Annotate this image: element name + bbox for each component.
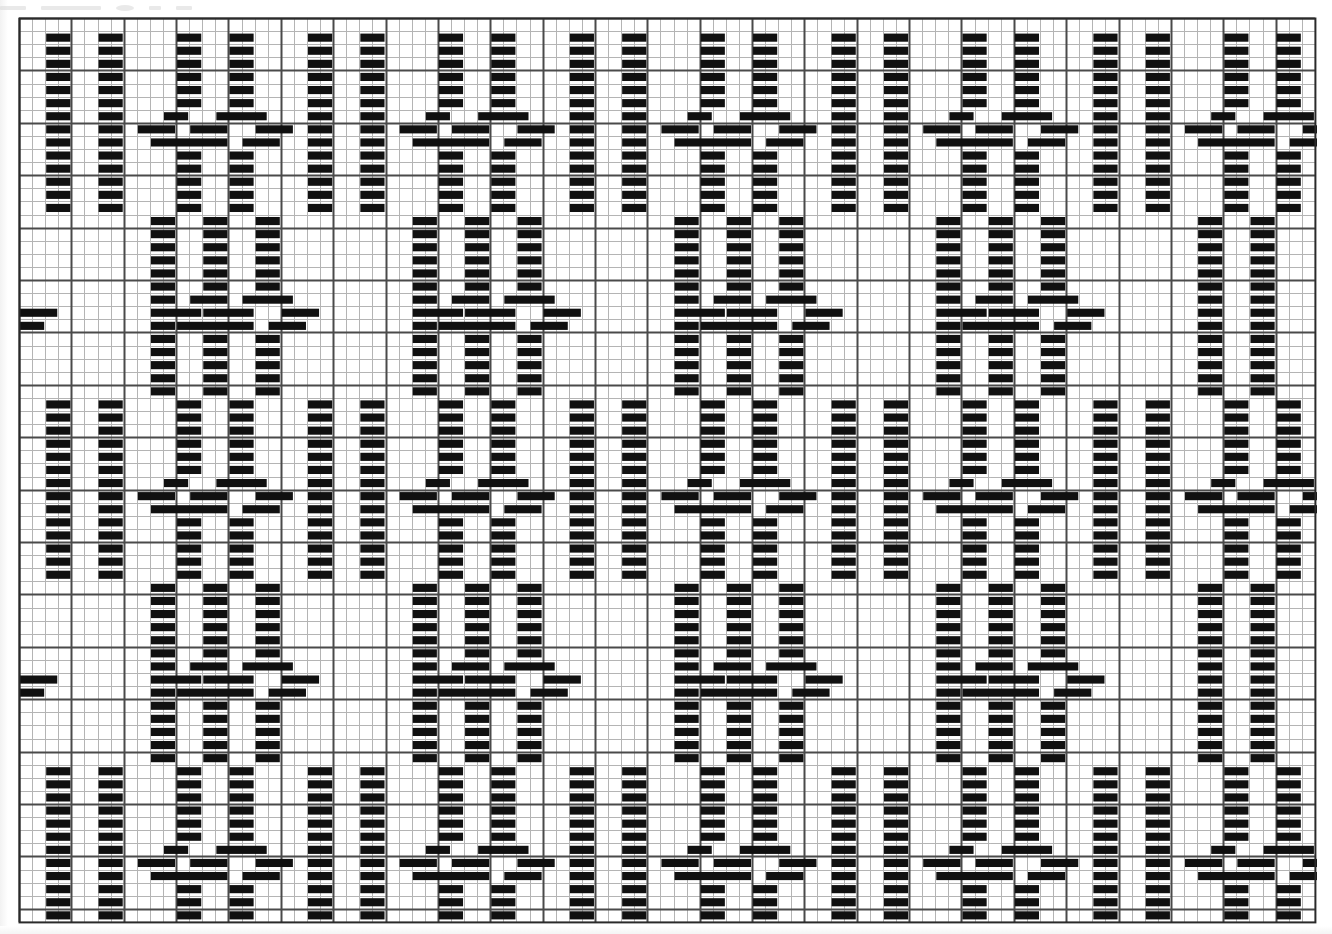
pattern-grid: [17, 16, 1313, 920]
artifact-mark-4: [149, 6, 161, 10]
artifact-mark-3: [116, 5, 134, 11]
artifact-mark-5: [176, 6, 192, 10]
pattern-grid-canvas: [17, 16, 1317, 924]
artifact-mark-1: [0, 6, 26, 10]
page-edge-shadow-left: [0, 0, 8, 934]
scanned-page: [0, 0, 1332, 934]
artifact-mark-2: [41, 6, 101, 10]
scan-header-artifact: [0, 0, 1332, 14]
page-edge-shadow-bottom: [0, 926, 1332, 934]
